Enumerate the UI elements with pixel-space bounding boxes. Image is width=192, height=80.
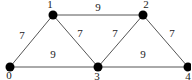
- edge-2-3: [98, 15, 143, 67]
- nodes: [6, 11, 192, 72]
- edge-1-3: [53, 15, 98, 67]
- edge-weight-labels: 7979779: [19, 1, 175, 60]
- node-label-4: 4: [185, 70, 191, 80]
- edge-weight-1-3: 7: [77, 27, 83, 39]
- weighted-graph: 7979779 01234: [0, 0, 191, 80]
- node-1: [49, 11, 58, 20]
- edge-weight-2-4: 7: [169, 27, 175, 39]
- node-2: [139, 11, 148, 20]
- node-label-1: 1: [47, 0, 53, 10]
- edge-weight-0-3: 9: [50, 48, 56, 60]
- edge-weight-2-3: 7: [112, 27, 118, 39]
- edge-0-1: [10, 15, 53, 67]
- node-label-0: 0: [6, 69, 12, 80]
- node-label-2: 2: [143, 0, 149, 10]
- edge-weight-1-2: 9: [95, 1, 101, 13]
- node-label-3: 3: [94, 70, 100, 80]
- edge-weight-3-4: 9: [140, 48, 146, 60]
- edges: [10, 15, 188, 67]
- edge-weight-0-1: 7: [19, 29, 25, 41]
- edge-2-4: [143, 15, 188, 67]
